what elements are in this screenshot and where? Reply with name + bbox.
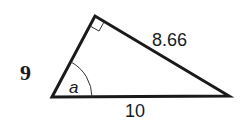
angle-label: a: [69, 78, 78, 97]
side-label-left: 9: [20, 60, 31, 85]
side-label-top-right: 8.66: [152, 30, 187, 50]
side-label-base: 10: [125, 101, 145, 121]
triangle: [52, 16, 229, 97]
triangle-diagram: 8.66 9 10 a: [0, 0, 246, 130]
